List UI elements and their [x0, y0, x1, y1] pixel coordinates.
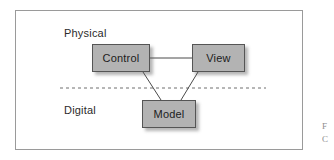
- connector-control-model: [143, 72, 161, 100]
- caption-fragment: F C: [322, 120, 334, 146]
- region-label-physical: Physical: [64, 27, 107, 39]
- caption-fragment-line-1: F: [322, 120, 334, 133]
- region-label-digital: Digital: [64, 104, 96, 116]
- diagram-connectors-layer: [0, 0, 334, 160]
- caption-fragment-line-2: C: [322, 133, 334, 146]
- node-control: Control: [92, 44, 150, 72]
- figure-root: Physical Digital Control View Model F C: [0, 0, 334, 160]
- connector-view-model: [181, 72, 198, 100]
- node-view: View: [192, 44, 245, 72]
- node-model: Model: [142, 100, 196, 128]
